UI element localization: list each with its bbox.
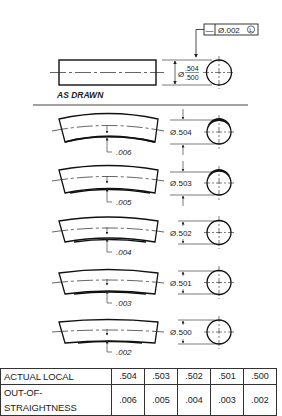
table-cell: .504 [112,369,145,385]
example-row-504: .006 Ø.504 [52,109,234,157]
straightness-symbol: — [206,26,214,35]
row-header: OUT-OF-STRAIGHTNESS [1,385,112,416]
example-row-500: .002 Ø.500 [52,316,234,357]
as-drawn-label: AS DRAWN [56,90,104,100]
table-cell: .502 [178,369,211,385]
straightness-value: .002 [116,348,132,357]
table-cell: .501 [211,369,244,385]
example-row-501: .003 Ø.501 [52,266,234,308]
diameter-value: Ø.501 [170,279,192,288]
size-lower-limit: .500 [185,74,199,81]
table-cell: .003 [211,385,244,416]
straightness-value: .003 [116,299,132,308]
diameter-value: Ø.502 [170,229,192,238]
diameter-value: Ø.500 [170,328,192,337]
table-row: ACTUAL LOCAL .504 .503 .502 .501 .500 [1,369,277,385]
table-cell: .005 [145,385,178,416]
straightness-value: .005 [116,198,132,207]
example-row-503: .005 Ø.503 [52,161,234,207]
example-row-502: .004 Ø.502 [52,216,234,257]
table-row: OUT-OF-STRAIGHTNESS .006 .005 .004 .003 … [1,385,277,416]
straightness-drawing: — Ø.002 L Ø .504 .500 AS DRAWN .006 [0,0,282,366]
diameter-value: Ø.503 [170,179,192,188]
table-cell: .500 [244,369,277,385]
straightness-value: .006 [116,148,132,157]
tolerance-value: Ø.002 [218,26,240,35]
table-cell: .004 [178,385,211,416]
diameter-symbol: Ø [178,70,184,79]
lmc-modifier-icon: L [249,27,253,33]
row-header: ACTUAL LOCAL [1,369,112,385]
table-cell: .002 [244,385,277,416]
size-straightness-table: ACTUAL LOCAL .504 .503 .502 .501 .500 OU… [0,368,277,416]
table-cell: .006 [112,385,145,416]
straightness-value: .004 [116,248,132,257]
table-cell: .503 [145,369,178,385]
feature-control-frame: — Ø.002 L [196,24,258,57]
as-drawn-view: Ø .504 .500 AS DRAWN [50,56,235,100]
size-upper-limit: .504 [185,65,199,72]
diameter-value: Ø.504 [170,128,192,137]
